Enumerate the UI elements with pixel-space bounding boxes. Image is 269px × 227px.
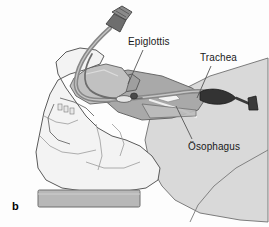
figure-panel: Epiglottis Trachea Ösophagus b xyxy=(0,0,269,227)
tooth-2 xyxy=(64,106,68,112)
label-osophagus: Ösophagus xyxy=(188,141,240,152)
label-trachea: Trachea xyxy=(200,52,237,63)
tooth-1 xyxy=(58,104,62,110)
anatomical-illustration xyxy=(0,0,269,227)
support-base-block xyxy=(38,190,140,207)
tooth-3 xyxy=(70,108,74,114)
label-epiglottis: Epiglottis xyxy=(128,36,170,47)
panel-letter: b xyxy=(12,200,19,212)
